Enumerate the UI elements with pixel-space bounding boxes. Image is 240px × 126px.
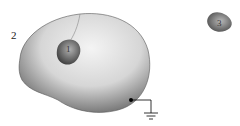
conductor-1-label: 1 bbox=[66, 44, 71, 54]
diagram-canvas bbox=[0, 0, 240, 126]
conductor-3-label: 3 bbox=[217, 18, 222, 28]
conductor-2-label: 2 bbox=[11, 29, 17, 41]
conductor-2 bbox=[19, 14, 150, 113]
